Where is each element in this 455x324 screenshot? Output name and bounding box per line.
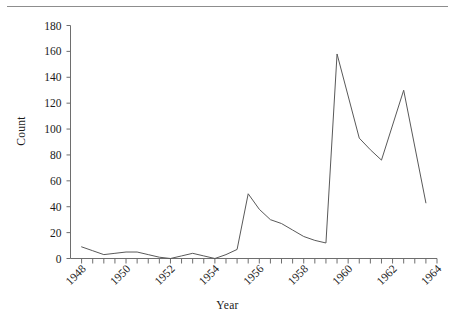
data-series-group [82,54,426,259]
line-chart-plot: 020406080100120140160180 194819501952195… [0,0,455,324]
x-axis-tick-label: 1964 [419,262,444,287]
y-axis-tick-label: 140 [44,71,62,83]
chart-figure: Count Year 020406080100120140160180 1948… [0,0,455,324]
y-axis: 020406080100120140160180 [44,20,70,265]
y-axis-tick-label: 120 [44,97,62,109]
x-axis-tick-label: 1948 [63,262,88,287]
x-axis-tick-label: 1950 [108,262,133,287]
count-series-line [82,54,426,259]
x-axis-tick-label: 1954 [197,262,222,287]
x-axis-tick-label: 1956 [241,262,266,287]
x-axis-tick-label: 1962 [374,262,399,287]
y-axis-tick-label: 160 [44,45,62,57]
y-axis-tick-label: 0 [56,253,62,265]
x-axis-tick-label: 1960 [330,262,355,287]
y-axis-tick-label: 60 [50,175,62,187]
y-axis-tick-label: 20 [50,227,62,239]
x-axis-tick-label: 1958 [285,262,310,287]
y-axis-tick-label: 100 [44,123,62,135]
x-axis-tick-label: 1952 [152,262,177,287]
y-axis-tick-label: 180 [44,20,62,32]
y-axis-tick-label: 80 [50,149,62,161]
x-axis: 194819501952195419561958196019621964 [63,259,443,288]
y-axis-tick-label: 40 [50,201,62,213]
